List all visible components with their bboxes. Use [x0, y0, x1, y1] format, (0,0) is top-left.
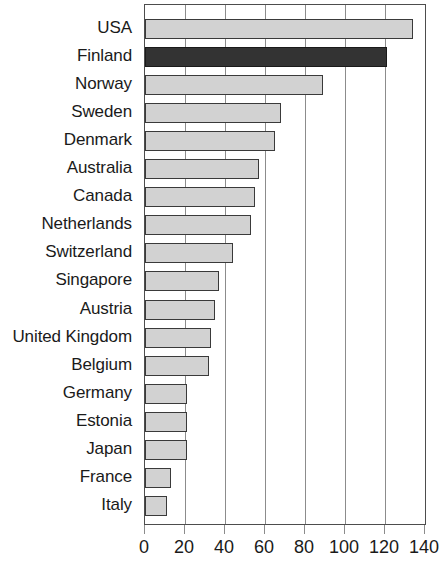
y-axis-label: Germany: [63, 383, 132, 403]
bar: [145, 187, 255, 207]
x-axis-tick: [424, 525, 425, 534]
bar: [145, 496, 167, 516]
y-axis-label: Italy: [101, 495, 132, 515]
x-axis-tick-label: 140: [409, 536, 439, 558]
y-axis-label: USA: [97, 18, 132, 38]
x-axis-tick-label: 60: [254, 536, 274, 558]
bar: [145, 440, 187, 460]
x-axis-tick-label: 80: [294, 536, 314, 558]
bar: [145, 47, 387, 67]
y-axis-label: Canada: [73, 186, 132, 206]
bar: [145, 131, 275, 151]
y-axis-label: United Kingdom: [12, 327, 132, 347]
bar: [145, 159, 259, 179]
y-axis-label: Norway: [75, 74, 132, 94]
x-axis-tick-labels: 020406080100120140: [144, 536, 424, 566]
y-axis-label: Denmark: [64, 130, 132, 150]
bar: [145, 356, 209, 376]
bar: [145, 215, 251, 235]
y-axis-label: Finland: [77, 46, 132, 66]
bar: [145, 468, 171, 488]
y-axis-label: Singapore: [55, 270, 132, 290]
bar: [145, 75, 323, 95]
x-axis-tick: [184, 525, 185, 534]
x-axis-tick-label: 0: [139, 536, 149, 558]
bar: [145, 412, 187, 432]
x-axis-tick-label: 120: [369, 536, 399, 558]
y-axis-label: Japan: [86, 439, 132, 459]
x-axis-tick: [304, 525, 305, 534]
bar-series: [145, 5, 425, 524]
bar: [145, 19, 413, 39]
x-axis-tick: [264, 525, 265, 534]
x-axis-tick-label: 40: [214, 536, 234, 558]
y-axis-label: Sweden: [71, 102, 132, 122]
y-axis-label: Switzerland: [45, 242, 132, 262]
x-axis-ticks: [144, 525, 424, 535]
bar: [145, 300, 215, 320]
y-axis-category-labels: USAFinlandNorwaySwedenDenmarkAustraliaCa…: [0, 4, 138, 523]
x-axis-tick: [344, 525, 345, 534]
y-axis-label: France: [80, 467, 132, 487]
plot-area: [144, 4, 426, 525]
x-axis-tick: [144, 525, 145, 534]
bar: [145, 328, 211, 348]
x-axis-tick: [224, 525, 225, 534]
x-axis-tick-label: 100: [329, 536, 359, 558]
y-axis-label: Austria: [80, 299, 132, 319]
y-axis-label: Estonia: [76, 411, 132, 431]
y-axis-label: Australia: [67, 158, 132, 178]
y-axis-label: Belgium: [71, 355, 132, 375]
x-axis-tick: [384, 525, 385, 534]
y-axis-label: Netherlands: [41, 214, 132, 234]
bar: [145, 103, 281, 123]
bar: [145, 243, 233, 263]
x-axis-tick-label: 20: [174, 536, 194, 558]
bar: [145, 384, 187, 404]
bar: [145, 271, 219, 291]
